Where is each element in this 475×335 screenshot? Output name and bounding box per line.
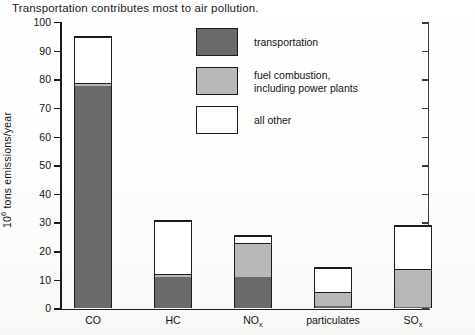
y-tick-90 (54, 51, 61, 52)
y-tick-right-60 (422, 137, 429, 138)
air-pollution-stacked-bar-chart: Transportation contributes most to air p… (0, 0, 475, 335)
y-tick-right-0 (422, 308, 429, 309)
y-tick-right-100 (422, 22, 429, 23)
y-tick-70 (54, 108, 61, 109)
y-axis-title-prefix: 10 (1, 216, 13, 228)
legend-label-fuel-combustion: fuel combustion, including power plants (254, 67, 358, 94)
x-axis-label-sox: SOx (404, 314, 423, 329)
y-axis-title: 106 tons emissions/year (0, 112, 13, 228)
y-tick-60 (54, 137, 61, 138)
y-tick-20 (54, 251, 61, 252)
y-tick-label-40: 40 (39, 189, 51, 200)
y-tick-10 (54, 280, 61, 281)
bar-particulates[interactable] (314, 267, 352, 309)
y-tick-label-20: 20 (39, 246, 51, 257)
y-tick-label-50: 50 (39, 160, 51, 171)
legend-swatch-fuel-combustion (196, 67, 238, 95)
y-tick-right-40 (422, 194, 429, 195)
y-tick-100 (54, 22, 61, 23)
legend-label-transportation: transportation (254, 28, 318, 49)
y-axis-title-exponent: 6 (0, 212, 8, 216)
y-tick-50 (54, 165, 61, 166)
legend-item-all-other: all other (196, 106, 358, 134)
x-axis-label-particulates: particulates (306, 314, 360, 326)
bar-segment-transportation (315, 306, 351, 309)
x-axis-label-nox: NOx (243, 314, 263, 329)
chart-caption: Transportation contributes most to air p… (12, 2, 259, 14)
x-axis-label-subscript: x (419, 320, 423, 329)
bar-segment-fuel-combustion (395, 269, 431, 307)
y-axis-title-suffix: tons emissions/year (1, 112, 13, 212)
x-axis-label-subscript: x (259, 320, 263, 329)
bar-segment-all-other (395, 226, 431, 268)
chart-legend: transportation fuel combustion, includin… (196, 28, 358, 145)
y-tick-label-10: 10 (39, 275, 51, 286)
y-tick-right-80 (422, 79, 429, 80)
y-tick-label-0: 0 (45, 303, 51, 314)
bar-segment-transportation (75, 86, 111, 309)
y-tick-80 (54, 79, 61, 80)
legend-label-all-other: all other (254, 106, 291, 127)
y-tick-label-100: 100 (33, 17, 51, 28)
y-tick-label-80: 80 (39, 74, 51, 85)
bar-segment-all-other (315, 268, 351, 292)
bar-segment-transportation (155, 277, 191, 308)
y-tick-label-60: 60 (39, 131, 51, 142)
bar-segment-transportation (395, 307, 431, 308)
legend-item-fuel-combustion: fuel combustion, including power plants (196, 67, 358, 95)
bar-segment-transportation (235, 277, 271, 308)
bar-segment-fuel-combustion (235, 243, 271, 277)
x-axis-label-hc: HC (165, 314, 180, 326)
bar-segment-fuel-combustion (315, 292, 351, 306)
y-tick-label-30: 30 (39, 217, 51, 228)
bar-sox[interactable] (394, 225, 432, 308)
y-tick-0 (54, 308, 61, 309)
bar-co[interactable] (74, 36, 112, 308)
bar-nox[interactable] (234, 235, 272, 308)
legend-item-transportation: transportation (196, 28, 358, 56)
y-tick-label-70: 70 (39, 103, 51, 114)
y-tick-right-70 (422, 108, 429, 109)
y-tick-30 (54, 222, 61, 223)
y-tick-right-50 (422, 165, 429, 166)
y-tick-right-30 (422, 222, 429, 223)
bar-segment-all-other (235, 236, 271, 243)
bar-segment-all-other (75, 37, 111, 83)
legend-swatch-transportation (196, 28, 238, 56)
x-axis-line (60, 309, 430, 311)
y-tick-40 (54, 194, 61, 195)
bar-hc[interactable] (154, 220, 192, 309)
legend-swatch-all-other (196, 106, 238, 134)
y-tick-label-90: 90 (39, 45, 51, 56)
x-axis-label-co: CO (85, 314, 101, 326)
y-tick-right-90 (422, 51, 429, 52)
bar-segment-all-other (155, 221, 191, 275)
